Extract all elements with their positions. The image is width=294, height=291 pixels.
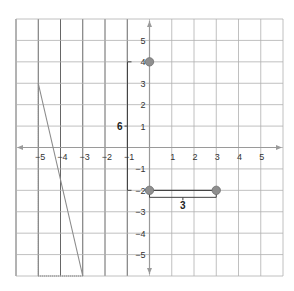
- y-axis-label: 3: [140, 79, 145, 89]
- y-axis-label: −4: [135, 229, 145, 239]
- y-axis-down-arrow-icon: [147, 268, 152, 274]
- y-axis-label: 1: [140, 122, 145, 132]
- point-0-4: [145, 58, 153, 66]
- y-axis-label: −3: [135, 207, 145, 217]
- point-3-neg2: [212, 186, 220, 194]
- vertical-measure-label: 6: [117, 121, 123, 132]
- x-axis-label: 5: [259, 152, 264, 162]
- y-axis-label: −2: [135, 186, 145, 196]
- x-axis-left-arrow-icon: [17, 145, 23, 150]
- point-0-neg2: [145, 186, 153, 194]
- x-axis-label: −5: [35, 152, 45, 162]
- x-axis-label: 3: [215, 152, 220, 162]
- y-axis-label: 4: [140, 57, 145, 67]
- y-axis-up-arrow-icon: [147, 21, 152, 27]
- y-axis-label: −1: [135, 164, 145, 174]
- horizontal-measure-label: 3: [180, 200, 186, 211]
- y-axis-label: 2: [140, 100, 145, 110]
- measurement-brackets: 36: [117, 62, 216, 212]
- x-axis-right-arrow-icon: [276, 145, 282, 150]
- x-axis-label: −1: [124, 152, 134, 162]
- x-axis-label: 1: [170, 152, 175, 162]
- y-axis-label: −5: [135, 250, 145, 260]
- horizontal-bracket: [150, 193, 217, 197]
- x-axis-label: 4: [237, 152, 242, 162]
- x-axis-label: −2: [102, 152, 112, 162]
- coordinate-plane: 36 −5−4−3−2−11234554321−1−2−3−4−5: [0, 0, 294, 291]
- x-axis-label: −4: [57, 152, 67, 162]
- x-axis-label: 2: [192, 152, 197, 162]
- y-axis-label: 5: [140, 36, 145, 46]
- x-axis-label: −3: [80, 152, 90, 162]
